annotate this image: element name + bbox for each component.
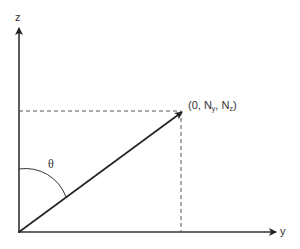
angle-arc — [19, 169, 66, 197]
point-label-suffix: ) — [233, 99, 237, 111]
point-label-mid: , N — [215, 99, 229, 111]
z-axis-label: z — [15, 12, 21, 23]
coordinate-diagram — [0, 0, 300, 249]
vector-endpoint-label: (0, Ny, Nz) — [188, 100, 237, 112]
theta-label: θ — [48, 158, 54, 170]
point-label-prefix: (0, N — [188, 99, 212, 111]
y-axis-label: y — [280, 226, 286, 237]
